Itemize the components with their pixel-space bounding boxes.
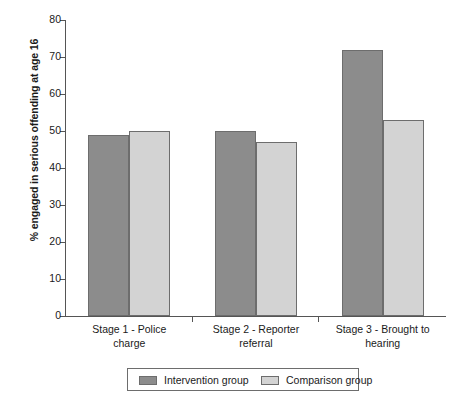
legend-swatch xyxy=(261,376,279,385)
bar xyxy=(215,131,256,316)
legend: Intervention groupComparison group xyxy=(127,368,359,391)
y-axis-title: % engaged in serious offending at age 16 xyxy=(24,0,44,300)
bar xyxy=(88,135,129,316)
x-axis-category-label: Stage 2 - Reporterreferral xyxy=(193,322,320,350)
bar xyxy=(256,142,297,316)
x-axis-category-label-line: hearing xyxy=(319,336,446,350)
x-axis-line xyxy=(65,316,446,317)
bar xyxy=(383,120,424,316)
y-axis-tick-label: 0 xyxy=(55,309,61,321)
y-axis-tick-label: 40 xyxy=(49,161,61,173)
y-axis-tick-label: 70 xyxy=(49,50,61,62)
y-axis-tick-label: 60 xyxy=(49,87,61,99)
y-axis-tick-label: 30 xyxy=(49,198,61,210)
y-axis-tick-label: 10 xyxy=(49,272,61,284)
plot-area: 01020304050607080 xyxy=(65,20,446,316)
x-axis-category-label-line: Stage 2 - Reporter xyxy=(193,322,320,336)
legend-label: Intervention group xyxy=(164,374,249,386)
bar-chart: % engaged in serious offending at age 16… xyxy=(0,0,475,402)
legend-swatch xyxy=(139,376,157,385)
x-axis-category-label-line: charge xyxy=(66,336,193,350)
x-axis-category-label: Stage 1 - Policecharge xyxy=(66,322,193,350)
x-axis-category-label-line: Stage 3 - Brought to xyxy=(319,322,446,336)
legend-label: Comparison group xyxy=(286,374,372,386)
bar-series-container xyxy=(66,20,446,316)
x-axis-category-label-line: referral xyxy=(193,336,320,350)
bar xyxy=(342,50,383,316)
x-axis-category-label: Stage 3 - Brought tohearing xyxy=(319,322,446,350)
x-axis-category-labels: Stage 1 - PolicechargeStage 2 - Reporter… xyxy=(66,322,446,362)
bar xyxy=(129,131,170,316)
legend-item: Intervention group xyxy=(139,373,249,387)
y-axis-tick-label: 80 xyxy=(49,13,61,25)
y-axis-tick-label: 20 xyxy=(49,235,61,247)
x-axis-category-label-line: Stage 1 - Police xyxy=(66,322,193,336)
legend-item: Comparison group xyxy=(261,373,372,387)
y-axis-tick-label: 50 xyxy=(49,124,61,136)
